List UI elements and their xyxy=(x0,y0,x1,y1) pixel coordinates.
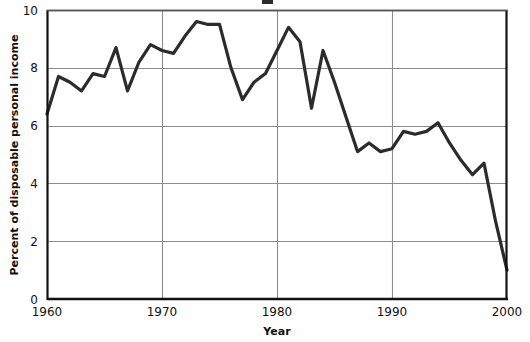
plot-area xyxy=(47,10,508,300)
line-chart: 0246810 19601970198019902000 Percent of … xyxy=(0,0,530,342)
x-tick-label-1960: 1960 xyxy=(32,305,63,319)
y-tick-label-8: 8 xyxy=(30,61,38,75)
x-tick-label-2000: 2000 xyxy=(492,305,523,319)
y-axis-title: Percent of disposable personal income xyxy=(8,35,21,276)
y-tick-label-6: 6 xyxy=(30,119,38,133)
chart-title-fragment xyxy=(262,0,273,4)
x-tick-label-1990: 1990 xyxy=(377,305,408,319)
x-tick-label-1970: 1970 xyxy=(147,305,178,319)
chart-figure: 0246810 19601970198019902000 Percent of … xyxy=(0,0,530,342)
y-tick-label-2: 2 xyxy=(30,235,38,249)
y-tick-label-4: 4 xyxy=(30,177,38,191)
x-tick-label-1980: 1980 xyxy=(262,305,293,319)
y-tick-label-10: 10 xyxy=(23,4,38,18)
x-axis-title: Year xyxy=(262,325,291,338)
